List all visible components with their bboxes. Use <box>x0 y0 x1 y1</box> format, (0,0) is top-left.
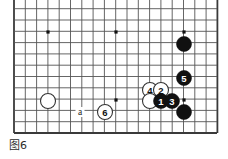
figure-caption: 图6 <box>9 139 27 152</box>
go-board: a 542136 <box>0 0 228 140</box>
stone-move-number: 1 <box>158 96 164 107</box>
stone-disc <box>177 37 192 52</box>
go-diagram-figure: a 542136 图6 <box>0 0 228 159</box>
go-stone-white[interactable] <box>41 94 56 109</box>
star-point <box>114 30 117 33</box>
stone-disc <box>41 94 56 109</box>
stone-move-number: 6 <box>102 107 107 118</box>
star-point <box>46 30 49 33</box>
go-stone-black[interactable] <box>177 105 192 120</box>
star-point <box>182 98 185 101</box>
stone-move-number: 3 <box>169 96 174 107</box>
go-stone-black[interactable] <box>177 37 192 52</box>
go-stone-white[interactable]: 6 <box>98 105 113 120</box>
star-point <box>182 30 185 33</box>
stone-move-number: 5 <box>181 73 187 84</box>
stone-disc <box>177 105 192 120</box>
go-board-canvas: a 542136 <box>0 0 228 140</box>
go-stone-black[interactable]: 3 <box>165 94 180 109</box>
go-stone-black[interactable]: 5 <box>177 71 192 86</box>
board-markers: a <box>76 107 85 117</box>
star-point <box>114 98 117 101</box>
